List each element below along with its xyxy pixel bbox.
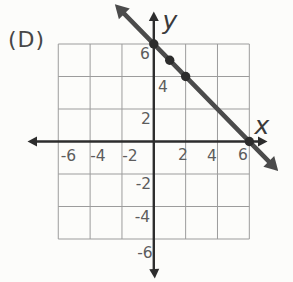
x-axis-left-arrow-icon: [28, 137, 38, 147]
option-label: (D): [8, 27, 45, 52]
x-axis-letter: x: [254, 111, 270, 140]
data-point-dot: [149, 39, 158, 48]
x-axis: [28, 137, 268, 147]
y-tick-label: -6: [137, 244, 152, 262]
y-tick-label: -2: [136, 175, 151, 193]
y-tick-label: 2: [141, 110, 151, 128]
x-tick-label: 2: [178, 146, 188, 164]
x-tick-label: -4: [90, 147, 105, 165]
x-tick-label: -2: [122, 147, 137, 165]
plotted-line: [115, 4, 278, 171]
y-tick-label: -4: [135, 208, 150, 226]
x-tick-label: 6: [238, 146, 248, 164]
data-point-dot: [165, 56, 174, 65]
graph-canvas: (D) y x -6 -4 -2 2 4 6 6 4 2 -2 -4 -6: [0, 0, 293, 282]
y-axis-bottom-arrow-icon: [149, 269, 159, 279]
y-tick-label: 6: [140, 45, 150, 63]
y-axis-letter: y: [162, 6, 179, 35]
data-point-dot: [181, 72, 190, 81]
y-tick-label: 4: [158, 78, 168, 96]
y-axis-top-arrow-icon: [149, 12, 159, 22]
x-tick-label: -6: [61, 147, 76, 165]
y-axis: [149, 12, 159, 279]
x-tick-label: 4: [207, 147, 217, 165]
graph-option-card: (D) y x -6 -4 -2 2 4 6 6 4 2 -2 -4 -6: [0, 0, 293, 282]
